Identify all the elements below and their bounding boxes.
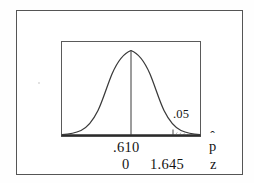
z-center-value-label: 0: [122, 157, 129, 172]
z-critical-value-label: 1.645: [150, 157, 184, 172]
phat-axis-name-text: p: [209, 139, 216, 154]
figure-root: .05 .610 0 1.645 p z: [0, 0, 254, 183]
scan-speck: [38, 82, 40, 84]
normal-distribution-curve: [61, 41, 201, 137]
tail-area-label: .05: [173, 108, 189, 121]
z-axis-name: z: [210, 157, 216, 172]
phat-center-value-label: .610: [113, 140, 140, 155]
phat-axis-name: p: [209, 139, 216, 154]
